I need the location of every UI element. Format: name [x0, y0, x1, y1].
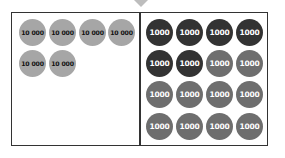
panel-divider	[139, 12, 141, 146]
coin-1000: 1000	[206, 113, 233, 140]
coin-1000: 1000	[206, 81, 233, 108]
coin-1000: 1000	[236, 113, 263, 140]
coin-10000: 10 000	[49, 50, 76, 77]
coin-10000: 10 000	[19, 50, 46, 77]
coin-10000: 10 000	[79, 19, 106, 46]
coin-1000: 1000	[176, 113, 203, 140]
coin-1000: 1000	[176, 19, 203, 46]
coin-1000: 1000	[236, 50, 263, 77]
coin-10000: 10 000	[19, 19, 46, 46]
coin-1000: 1000	[236, 81, 263, 108]
coin-1000: 1000	[206, 50, 233, 77]
coin-1000: 1000	[206, 19, 233, 46]
coin-1000: 1000	[146, 19, 173, 46]
coin-10000: 10 000	[49, 19, 76, 46]
coin-1000: 1000	[146, 81, 173, 108]
coin-1000: 1000	[146, 50, 173, 77]
pointer-triangle-icon	[134, 0, 148, 7]
coin-10000: 10 000	[108, 19, 135, 46]
coin-1000: 1000	[176, 50, 203, 77]
coin-1000: 1000	[236, 19, 263, 46]
coin-1000: 1000	[146, 113, 173, 140]
coin-1000: 1000	[176, 81, 203, 108]
